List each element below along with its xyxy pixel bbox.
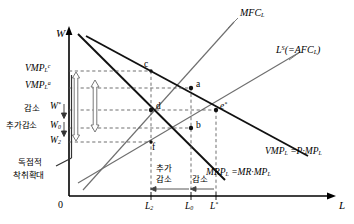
x-tick-label-lstar: L*: [210, 202, 218, 212]
origin-label: 0: [58, 200, 63, 210]
annotation-wage-extra-decrease: 추가감소: [6, 121, 37, 130]
wage-decrease-arrows-group: [61, 104, 66, 137]
y-tick-label-w-star: W*: [50, 102, 61, 112]
diagram-svg: [0, 0, 354, 224]
point-label-f: f: [152, 143, 155, 153]
x-tick-label-l2: L2: [145, 202, 153, 212]
annotation-emp-decrease: 감소: [192, 175, 208, 184]
curve-label-mfc: MFCL: [240, 8, 265, 19]
point-marker-b: [189, 126, 193, 130]
leader-mfc: [228, 18, 238, 28]
x-axis-label: L: [339, 200, 345, 211]
curve-label-vmp: VMPL =P·MPL: [265, 147, 322, 157]
point-label-b: b: [196, 121, 201, 131]
annotation-wage-decrease: 감소: [24, 104, 40, 113]
point-label-a: a: [196, 80, 200, 90]
point-label-d: d: [156, 102, 161, 112]
point-marker-estar: [214, 108, 218, 112]
vmp-curve: [86, 36, 308, 156]
arrow-extra-decrease-head: [61, 131, 66, 137]
x-axis-arrowhead: [327, 193, 336, 200]
point-label-e-star: e*: [220, 102, 227, 112]
y-tick-label-vmp-c: VMPLc: [25, 64, 50, 74]
curve-label-labor-supply: LS(=AFCL): [276, 45, 320, 56]
annotation-emp-extra-decrease-line1: 추가: [156, 164, 172, 173]
annotation-emp-extra-decrease-line2: 감소: [156, 175, 172, 184]
point-label-c: c: [144, 60, 148, 70]
point-marker-c: [149, 69, 152, 72]
thick-curves-group: [78, 34, 308, 180]
y-tick-label-w-2: W2: [50, 136, 61, 146]
annotation-monopoly-line2: 착취확대: [13, 171, 44, 180]
annotation-monopoly-line1: 독점적: [18, 158, 41, 167]
employment-change-arrows-group: [151, 187, 217, 200]
left-hollow-arrows-group: [72, 72, 99, 141]
y-axis-arrowhead: [66, 26, 73, 35]
y-axis-label: W: [56, 28, 65, 39]
y-tick-label-vmp-a: VMPLa: [25, 81, 51, 91]
diagram-canvas: W L 0 MFCL LS(=AFCL) VMPL =P·MPL MRPL =M…: [0, 0, 354, 224]
arrow-decrease-head: [61, 113, 66, 119]
curve-label-mrp: MRPL =MR·MPL: [206, 168, 271, 178]
y-tick-label-w-0: W0: [50, 121, 61, 131]
point-marker-a: [189, 86, 193, 90]
x-tick-label-l0: L0: [185, 202, 193, 212]
point-marker-d: [149, 108, 153, 112]
hollow-arrow-outer: [72, 72, 79, 141]
thin-curves-group: [78, 22, 300, 190]
